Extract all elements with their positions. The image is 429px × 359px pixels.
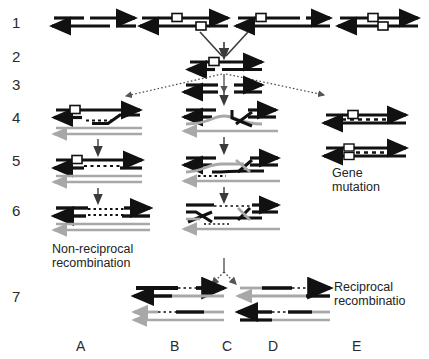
marker-square [256, 14, 266, 22]
marker-square [344, 144, 354, 151]
row-number-2: 2 [12, 48, 20, 65]
column-letter-a: A [76, 338, 85, 354]
non-reciprocal-recombination-caption: Non-reciprocal recombination [52, 242, 133, 270]
branch-row2-dotted [126, 74, 324, 96]
marker-square [70, 106, 80, 114]
marker-square [209, 58, 219, 66]
row4-middle-panel [184, 110, 278, 131]
marker-square [378, 22, 388, 30]
row-number-4: 4 [12, 109, 20, 126]
arrow-row1-to-row2 [200, 32, 248, 58]
figure-canvas: 1 2 3 4 5 6 7 A B C D E Gene mutation No… [0, 0, 429, 359]
row1-unit-1 [52, 18, 136, 26]
non-reciprocal-line-2: recombination [52, 256, 133, 270]
non-reciprocal-line-1: Non-reciprocal [52, 242, 133, 256]
row1-unit-2 [140, 14, 228, 31]
row7-panel-d-product-2 [238, 312, 330, 320]
column-letter-e: E [352, 338, 361, 354]
gene-mutation-caption: Gene mutation [332, 166, 380, 194]
branch-row7-splitter [212, 258, 236, 284]
column-letter-d: D [268, 338, 278, 354]
gene-mutation-line-2: mutation [332, 180, 380, 194]
row-number-5: 5 [12, 152, 20, 169]
reciprocal-recombination-caption: Reciprocal recombinatio [334, 280, 406, 308]
gene-mutation-line-1: Gene [332, 166, 380, 180]
row7-panel-b-product-1 [134, 288, 224, 296]
row-number-6: 6 [12, 202, 20, 219]
marker-square [172, 14, 182, 22]
column-letter-c: C [222, 338, 232, 354]
column-letter-b: B [170, 338, 179, 354]
row6-middle-panel [184, 205, 280, 229]
row3-fragment-left [184, 85, 218, 92]
row-number-3: 3 [12, 76, 20, 93]
marker-square-open [344, 153, 354, 160]
reciprocal-line-1: Reciprocal [334, 280, 406, 294]
marker-square [368, 14, 378, 22]
row-number-1: 1 [12, 14, 20, 31]
row4-right-panel [324, 111, 406, 124]
row6-left-panel [54, 208, 150, 230]
row5-left-panel [54, 156, 142, 183]
row1-unit-4 [338, 14, 418, 31]
row7-panel-b-product-2 [134, 312, 224, 320]
row2-duplex [188, 58, 262, 70]
row5-middle-panel [184, 158, 280, 181]
row1-unit-3 [236, 14, 330, 27]
row5-right-panel [324, 144, 406, 160]
reciprocal-line-2: recombinatio [334, 294, 406, 308]
row-number-7: 7 [12, 288, 20, 305]
marker-square [348, 111, 358, 119]
row7-panel-d-product-1 [238, 288, 330, 296]
row3-fragment-right [234, 85, 262, 92]
row4-left-panel [54, 106, 142, 135]
marker-square [72, 156, 82, 164]
marker-square [196, 22, 206, 30]
